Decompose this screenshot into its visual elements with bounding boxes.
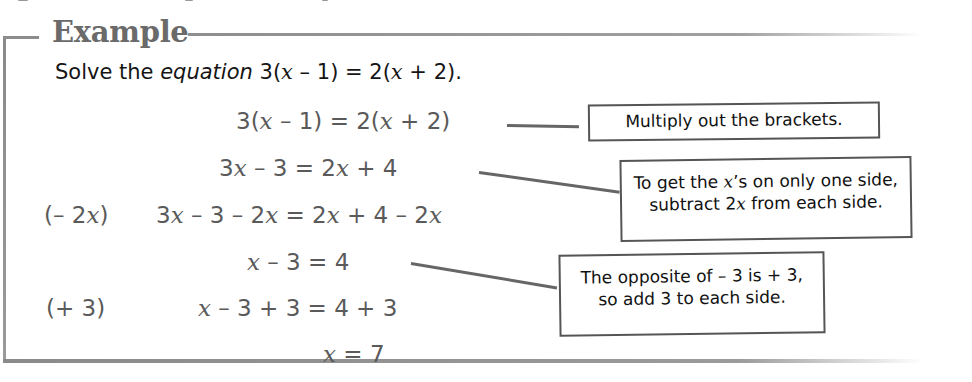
example-frame-top-border [188, 33, 923, 36]
step-4-equation: x – 3 = 4 [247, 251, 349, 274]
step-5-equation: x – 3 + 3 = 4 + 3 [198, 297, 397, 320]
callout-3-line-2: so add 3 to each side. [569, 285, 815, 311]
step-3-equation: 3x – 3 – 2x = 2x + 4 – 2x [156, 204, 442, 227]
callout-multiply-brackets: Multiply out the brackets. [588, 101, 880, 141]
example-frame-bottom-border [3, 359, 923, 363]
callout-add-3: The opposite of – 3 is + 3, so add 3 to … [558, 251, 825, 337]
step-2-equation: 3x – 3 = 2x + 4 [219, 157, 397, 180]
step-1-equation: 3(x – 1) = 2(x + 2) [236, 110, 450, 133]
step-5-operation-label: (+ 3) [46, 297, 105, 320]
callout-subtract-2x: To get the x’s on only one side, subtrac… [619, 156, 912, 242]
problem-prefix: Solve the [55, 60, 160, 84]
problem-statement: Solve the equation 3(x – 1) = 2(x + 2). [55, 62, 462, 83]
connector-line-2 [479, 171, 620, 194]
problem-word-equation: equation [160, 60, 253, 84]
callout-2-line-2: subtract 2x from each side. [630, 190, 902, 216]
cropped-previous-text [0, 0, 972, 4]
example-frame-top-stub [3, 36, 39, 39]
connector-line-3 [411, 262, 557, 289]
example-heading: Example [52, 18, 189, 47]
step-3-operation-label: (– 2x) [44, 204, 108, 227]
connector-line-1 [507, 124, 579, 128]
step-6-solution: x = 7 [323, 343, 385, 366]
example-frame-left-border [3, 37, 6, 362]
problem-equation: 3(x – 1) = 2(x + 2). [260, 60, 462, 84]
